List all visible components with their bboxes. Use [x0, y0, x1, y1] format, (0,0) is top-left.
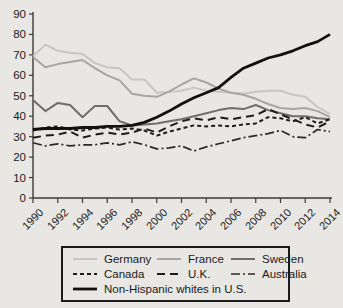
legend-line-sample [73, 270, 97, 278]
legend-line-sample [231, 270, 255, 278]
legend-label: Canada [104, 268, 144, 280]
scanned-chart-page: 0102030405060708090 19901992199419961998… [0, 0, 343, 308]
plot-area: 0102030405060708090 [0, 0, 343, 245]
legend-label: Germany [104, 253, 151, 265]
legend-label: U.K. [188, 268, 210, 280]
y-tick-label: 60 [13, 69, 26, 81]
legend-item-germany: Germany [73, 253, 157, 265]
legend-line-sample [157, 270, 181, 278]
legend-grid: GermanyFranceSwedenCanadaU.K.AustraliaNo… [73, 253, 282, 295]
series-line-france [33, 57, 330, 117]
legend-line-sample [157, 255, 181, 263]
y-tick-label: 10 [13, 172, 26, 184]
legend-line-sample [73, 255, 97, 263]
y-tick-label: 0 [20, 192, 26, 204]
y-tick-label: 90 [13, 8, 26, 20]
legend-item-sweden: Sweden [231, 253, 307, 265]
legend-label: France [188, 253, 224, 265]
legend-label: Non-Hispanic whites in U.S. [104, 283, 247, 295]
legend-item-non-hispanic-whites-in-u-s: Non-Hispanic whites in U.S. [73, 283, 307, 295]
y-tick-label: 30 [13, 131, 26, 143]
legend: GermanyFranceSwedenCanadaU.K.AustraliaNo… [61, 246, 290, 302]
legend-item-canada: Canada [73, 268, 157, 280]
y-tick-label: 20 [13, 151, 26, 163]
y-tick-label: 80 [13, 28, 26, 40]
y-tick-label: 70 [13, 49, 26, 61]
legend-item-australia: Australia [231, 268, 307, 280]
line-chart: 0102030405060708090 19901992199419961998… [0, 0, 343, 245]
y-tick-label: 40 [13, 110, 26, 122]
legend-label: Sweden [262, 253, 304, 265]
legend-line-sample [73, 285, 97, 293]
legend-item-france: France [157, 253, 231, 265]
y-tick-label: 50 [13, 90, 26, 102]
legend-item-u-k: U.K. [157, 268, 231, 280]
legend-label: Australia [262, 268, 307, 280]
legend-line-sample [231, 255, 255, 263]
series-line-australia [33, 130, 330, 152]
